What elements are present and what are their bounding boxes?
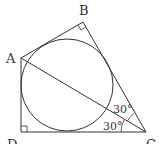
- diagonal-ac: [21, 58, 146, 132]
- angle-label-acd: 30°: [103, 120, 123, 133]
- label-d: D: [7, 137, 17, 144]
- right-angle-mark-d: [21, 126, 27, 132]
- label-b: B: [79, 3, 89, 18]
- angle-label-bca: 30°: [113, 103, 133, 116]
- label-a: A: [5, 51, 16, 66]
- label-c: C: [146, 137, 156, 144]
- geometry-figure: A B C D 30° 30°: [0, 0, 159, 144]
